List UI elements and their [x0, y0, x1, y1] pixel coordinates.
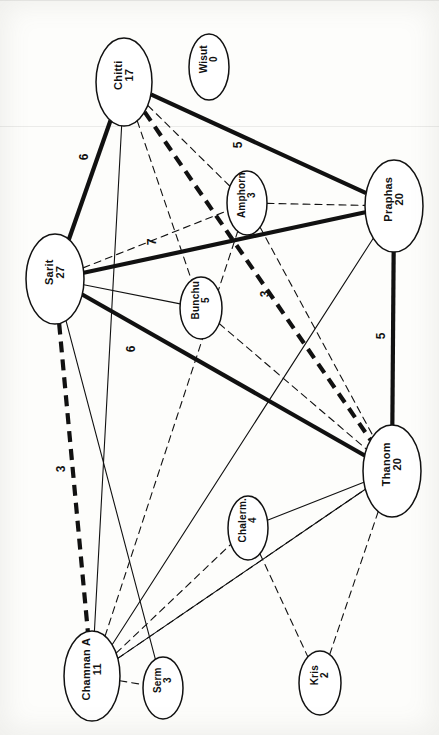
node-bunchu[interactable]: [180, 277, 222, 339]
edge-chitti-thanom: [145, 112, 371, 440]
node-serm[interactable]: [143, 657, 183, 719]
node-praphas[interactable]: [365, 160, 423, 252]
node-kris[interactable]: [299, 651, 341, 715]
edge-thanom-kris: [330, 512, 379, 655]
edge-chalerm-kris: [260, 554, 308, 657]
edge-amphorn-praphas: [267, 203, 365, 205]
edges-layer: [59, 94, 394, 684]
edge-thanom-chalerm: [267, 482, 363, 520]
edge-chitti-sarit: [69, 121, 111, 240]
edge-chamnan-chalerm: [116, 544, 231, 653]
edge-sarit-bunchu: [84, 285, 180, 304]
edge-chamnan-serm: [120, 681, 143, 685]
node-chalerm[interactable]: [228, 496, 268, 560]
node-wisut[interactable]: [189, 34, 229, 100]
node-amphorn[interactable]: [227, 171, 267, 235]
edge-chitti-chamnan: [94, 126, 121, 631]
node-chitti[interactable]: [96, 38, 152, 126]
edge-praphas-chamnan: [112, 238, 373, 644]
node-sarit[interactable]: [26, 234, 84, 324]
edge-sarit-praphas: [84, 212, 366, 273]
edge-sarit-thanom: [82, 295, 364, 456]
network-graph: [0, 0, 439, 735]
edge-sarit-chamnan: [59, 324, 88, 632]
diagram-canvas: Chitti17Wisut0Sarit27Praphas20Amphorn3Bu…: [0, 0, 439, 735]
edge-sarit-serm: [66, 321, 155, 660]
edge-praphas-thanom: [392, 252, 393, 425]
node-thanom[interactable]: [363, 425, 421, 517]
node-chamnan[interactable]: [64, 631, 120, 721]
